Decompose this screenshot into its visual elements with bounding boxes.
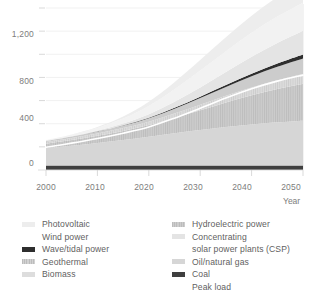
legend-column-right: Hydroelectric powerConcentratingsolar po… bbox=[172, 218, 318, 294]
legend-label: Photovoltaic bbox=[42, 218, 90, 231]
legend-label: Oil/natural gas bbox=[192, 256, 249, 269]
legend-item: Wave/tidal power bbox=[22, 243, 162, 256]
legend-label: solar power plants (CSP) bbox=[192, 243, 290, 256]
legend-label: Wind power bbox=[42, 231, 88, 244]
y-tick-1200: 1,200 bbox=[0, 29, 34, 39]
legend-swatch-icon bbox=[172, 272, 185, 277]
legend-swatch-icon bbox=[22, 272, 35, 277]
legend-swatch-icon bbox=[172, 284, 185, 289]
x-tick-2000: 2000 bbox=[26, 182, 66, 192]
legend-item: Geothermal bbox=[22, 256, 162, 269]
legend-label: Biomass bbox=[42, 268, 76, 281]
area-coal bbox=[46, 166, 303, 170]
legend-item: Coal bbox=[172, 268, 318, 281]
axis-lines bbox=[38, 170, 303, 176]
legend-swatch-icon bbox=[22, 247, 35, 252]
legend-label: Coal bbox=[192, 268, 210, 281]
legend-label: Peak load bbox=[192, 281, 231, 294]
legend-item: solar power plants (CSP) bbox=[172, 243, 318, 256]
y-tick-0: 0 bbox=[0, 158, 34, 168]
legend-label: Geothermal bbox=[42, 256, 88, 269]
y-tick-400: 400 bbox=[0, 113, 34, 123]
chart-container: 1,200 800 400 0 2000 2010 2020 2030 2040… bbox=[0, 0, 318, 301]
legend-swatch-icon bbox=[22, 234, 35, 239]
legend-item: Biomass bbox=[22, 268, 162, 281]
legend-swatch-icon bbox=[22, 222, 35, 227]
x-tick-2050: 2050 bbox=[271, 182, 311, 192]
legend-item: Peak load bbox=[172, 281, 318, 294]
legend-swatch-icon bbox=[22, 259, 35, 264]
legend-swatch-icon bbox=[172, 234, 185, 239]
legend-swatch-icon bbox=[172, 247, 185, 252]
legend-item: Concentrating bbox=[172, 231, 318, 244]
legend-swatch-icon bbox=[172, 222, 185, 227]
chart-legend: PhotovoltaicWind powerWave/tidal powerGe… bbox=[0, 218, 318, 301]
legend-column-left: PhotovoltaicWind powerWave/tidal powerGe… bbox=[22, 218, 162, 281]
x-axis-title: Year bbox=[283, 196, 300, 206]
legend-item: Photovoltaic bbox=[22, 218, 162, 231]
x-tick-2010: 2010 bbox=[75, 182, 115, 192]
legend-label: Wave/tidal power bbox=[42, 243, 109, 256]
legend-label: Hydroelectric power bbox=[192, 218, 270, 231]
legend-item: Hydroelectric power bbox=[172, 218, 318, 231]
legend-item: Oil/natural gas bbox=[172, 256, 318, 269]
legend-swatch-icon bbox=[172, 259, 185, 264]
y-tick-800: 800 bbox=[0, 76, 34, 86]
x-tick-2030: 2030 bbox=[173, 182, 213, 192]
legend-item: Wind power bbox=[22, 231, 162, 244]
x-tick-2040: 2040 bbox=[222, 182, 262, 192]
x-tick-2020: 2020 bbox=[124, 182, 164, 192]
plot-area: 1,200 800 400 0 2000 2010 2020 2030 2040… bbox=[0, 0, 318, 215]
legend-label: Concentrating bbox=[192, 231, 247, 244]
